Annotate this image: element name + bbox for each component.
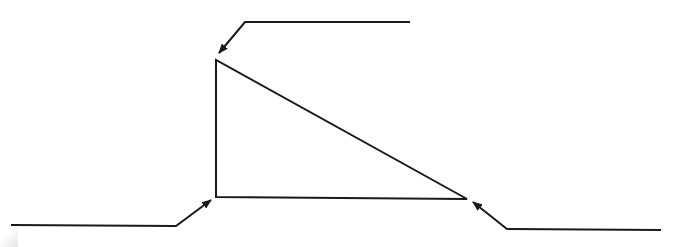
- right-triangle: [216, 60, 467, 199]
- top-vertex-leader-arrow: [219, 22, 410, 53]
- triangle-diagram: [0, 0, 694, 247]
- page-corner-shade: [0, 225, 18, 247]
- bottom-right-vertex-leader-arrow: [473, 202, 661, 230]
- bottom-left-vertex-leader-arrow: [11, 200, 211, 226]
